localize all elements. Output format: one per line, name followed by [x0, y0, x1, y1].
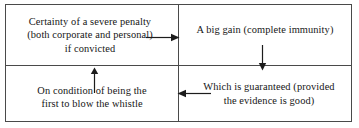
- arrow-left-icon: [177, 89, 211, 98]
- cell-top-left-text: Certainty of a severe penalty (both corp…: [27, 15, 153, 55]
- arrow-down-icon: [258, 45, 267, 71]
- arrow-right-icon: [146, 33, 180, 42]
- diagram-frame: Certainty of a severe penalty (both corp…: [5, 4, 352, 122]
- arrow-up-icon: [90, 67, 99, 93]
- diagram-screenshot: Certainty of a severe penalty (both corp…: [0, 0, 359, 128]
- cell-bottom-right-text: Which is guaranteed (provided the eviden…: [203, 80, 334, 106]
- cell-top-right-text: A big gain (complete immunity): [197, 23, 334, 36]
